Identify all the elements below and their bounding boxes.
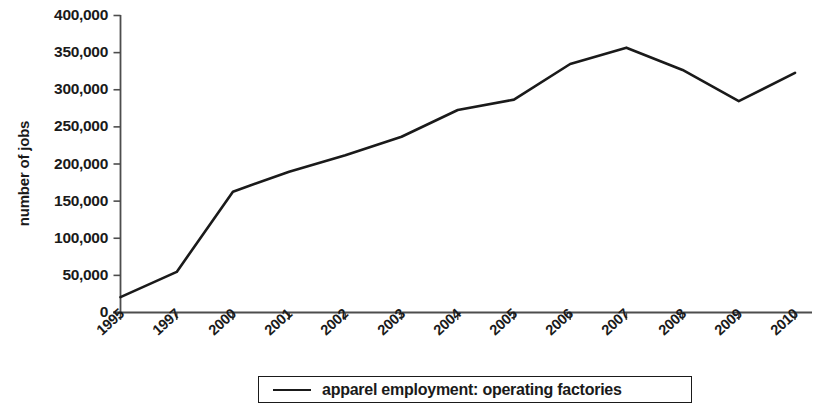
legend-label: apparel employment: operating factories bbox=[322, 381, 622, 399]
axis-lines bbox=[113, 15, 812, 313]
legend-line-swatch-icon bbox=[273, 389, 311, 391]
data-series-line bbox=[121, 48, 796, 297]
chart-figure: number of jobs 050,000100,000150,000200,… bbox=[0, 0, 817, 405]
chart-legend: apparel employment: operating factories bbox=[258, 376, 692, 403]
y-axis-ticks bbox=[114, 16, 121, 313]
plot-area bbox=[0, 0, 817, 340]
